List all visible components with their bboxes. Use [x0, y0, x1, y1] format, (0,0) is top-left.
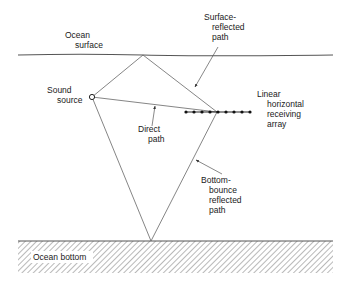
- surface-reflected-path-down: [92, 55, 143, 97]
- surface-reflected-path-up: [143, 55, 217, 112]
- receiving-array-label-line3: receiving: [257, 109, 304, 119]
- receiving-array: [184, 110, 251, 113]
- surface-reflected-label-line2: reflected: [204, 22, 245, 32]
- bottom-bounce-label-line2: bounce: [201, 185, 242, 195]
- bottom-bounce-label-line1: Bottom-: [201, 175, 242, 185]
- direct-path-label-line2: path: [138, 134, 165, 144]
- ocean-bottom-label: Ocean bottom: [33, 252, 86, 262]
- bottom-bounce-path-label: Bottom- bounce reflected path: [201, 175, 242, 215]
- bottom-bounce-label-line4: path: [201, 205, 242, 215]
- receiving-array-label-line4: array: [257, 119, 304, 129]
- direct-path-label: Direct path: [138, 124, 165, 144]
- multipath-propagation-diagram: Ocean surface Sound source Surface- refl…: [0, 0, 349, 285]
- sound-source-icon: [89, 94, 94, 99]
- ocean-surface-label-line2: surface: [65, 40, 103, 50]
- bottom-bounce-label-line3: reflected: [201, 195, 242, 205]
- sound-source-label-line1: Sound: [47, 85, 83, 95]
- ocean-surface-label-line1: Ocean: [65, 30, 103, 40]
- surface-reflected-leader-arrow: [195, 47, 218, 87]
- receiving-array-label-line2: horizontal: [257, 99, 304, 109]
- sound-source-label-line2: source: [47, 95, 83, 105]
- surface-reflected-label-line3: path: [204, 32, 245, 42]
- sound-source-label: Sound source: [47, 85, 83, 105]
- surface-reflected-label-line1: Surface-: [204, 12, 245, 22]
- surface-reflected-path-label: Surface- reflected path: [204, 12, 245, 42]
- ocean-surface-label: Ocean surface: [65, 30, 103, 50]
- receiving-array-label-line1: Linear: [257, 89, 304, 99]
- direct-path-leader-arrow: [152, 106, 155, 126]
- bottom-bounce-leader-arrow: [196, 160, 222, 174]
- diagram-canvas: [0, 0, 349, 285]
- ocean-surface-line: [18, 54, 333, 56]
- receiving-array-label: Linear horizontal receiving array: [257, 89, 304, 129]
- bottom-bounce-path-down: [92, 97, 151, 241]
- direct-path-label-line1: Direct: [138, 124, 165, 134]
